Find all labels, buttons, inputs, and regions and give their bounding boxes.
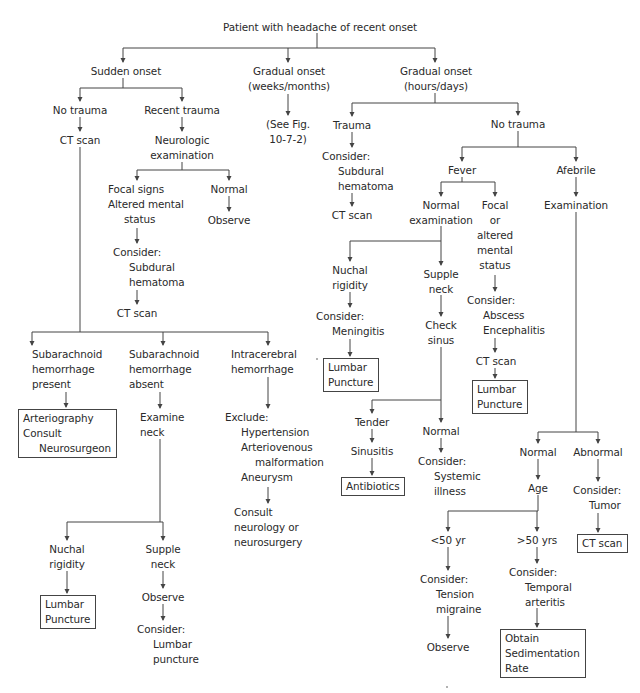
lumbar-puncture-box: LumbarPuncture <box>323 358 379 392</box>
exclude-node: Exclude:HypertensionArteriovenousmalform… <box>225 410 324 485</box>
node-text: neck <box>140 425 184 440</box>
node-text: hematoma <box>113 275 185 290</box>
sudden-onset-node: Sudden onset <box>91 64 161 79</box>
arrowhead-icon <box>161 584 166 589</box>
arrowhead-icon <box>65 589 70 594</box>
ct-scan-node: CT scan <box>332 208 372 223</box>
node-text: rigidity <box>332 278 368 293</box>
node-text: Consider: <box>420 572 481 587</box>
ct-scan-box: CT scan <box>577 534 628 553</box>
consider-subdural-node: Consider:Subduralhematoma <box>322 149 394 194</box>
node-text: Consider: <box>113 245 185 260</box>
node-text: mental <box>477 243 513 258</box>
tender-node: Tender <box>355 415 389 430</box>
arrowhead-icon <box>161 616 166 621</box>
node-text: puncture <box>137 652 199 667</box>
node-text: Sinusitis <box>351 444 393 459</box>
afebrile-node: Afebrile <box>556 163 595 178</box>
arrowhead-icon <box>516 111 521 116</box>
observe-node: Observe <box>142 590 185 605</box>
observe-node: Observe <box>208 213 251 228</box>
arrowhead-icon <box>493 348 498 353</box>
node-text: Consult <box>23 426 111 441</box>
node-text: Patient with headache of recent onset <box>223 20 417 35</box>
sinusitis-node: Sinusitis <box>351 444 393 459</box>
node-text: Normal <box>423 424 460 439</box>
observe-node: Observe <box>427 640 470 655</box>
node-text: Puncture <box>328 375 373 390</box>
node-text: sinus <box>425 333 456 348</box>
root-node: Patient with headache of recent onset <box>223 20 417 35</box>
node-text: Focal <box>477 198 513 213</box>
node-text: present <box>32 377 102 392</box>
node-text: Hypertension <box>225 425 324 440</box>
see-figure-node: (See Fig.10-7-2) <box>266 117 310 147</box>
node-text: Normal <box>409 198 473 213</box>
node-text: CT scan <box>332 208 372 223</box>
arrowhead-icon <box>227 176 232 181</box>
node-text: 10-7-2) <box>266 132 310 147</box>
arrowhead-icon <box>135 239 140 244</box>
arrowhead-icon <box>446 566 451 571</box>
node-text: Examination <box>544 198 608 213</box>
arrowhead-icon <box>65 536 70 541</box>
nuchal-rigidity-node: Nuchalrigidity <box>49 542 85 572</box>
node-text: Normal <box>520 445 557 460</box>
arrowhead-icon <box>348 303 353 308</box>
arrowhead-icon <box>161 536 166 541</box>
node-text: malformation <box>225 455 324 470</box>
node-text: Age <box>528 481 548 496</box>
node-text: Sudden onset <box>91 64 161 79</box>
arrowhead-icon <box>266 499 271 504</box>
node-text: Abscess <box>467 308 545 323</box>
arrowhead-icon <box>348 352 353 357</box>
focal-signs-node: Focal signsAltered mentalstatus <box>108 182 184 227</box>
obtain-sedimentation-rate-box: ObtainSedimentationRate <box>500 629 586 678</box>
arrowhead-icon <box>446 634 451 639</box>
node-text: Obtain <box>505 631 580 646</box>
node-text: No trauma <box>53 103 107 118</box>
node-text: rigidity <box>49 557 85 572</box>
arrowhead-icon <box>439 261 444 266</box>
arrowhead-icon <box>350 202 355 207</box>
arrowhead-icon <box>536 475 541 480</box>
arrowhead-icon <box>180 127 185 132</box>
arrowhead-icon <box>493 287 498 292</box>
arrowhead-icon <box>350 112 355 117</box>
node-text: altered <box>477 228 513 243</box>
node-text: Consider: <box>509 565 572 580</box>
node-text: Intracerebral <box>231 347 297 362</box>
node-text: Normal <box>211 182 248 197</box>
arrowhead-icon <box>135 300 140 305</box>
node-text: neurosurgery <box>234 535 302 550</box>
node-text: Consider: <box>316 309 384 324</box>
node-text: Tender <box>355 415 389 430</box>
node-text: (hours/days) <box>400 79 472 94</box>
node-text: Fever <box>448 163 476 178</box>
consider-temporal-arteritis-node: Consider:Temporalarteritis <box>509 565 572 610</box>
node-text: Neurologic <box>150 133 214 148</box>
node-text: Gradual onset <box>400 64 472 79</box>
node-text: Subarachnoid <box>32 347 102 362</box>
print-speck <box>446 686 448 688</box>
node-text: Lumbar <box>45 597 90 612</box>
node-text: status <box>108 212 184 227</box>
node-text: Temporal <box>509 580 572 595</box>
arrowhead-icon <box>370 438 375 443</box>
node-text: CT scan <box>582 536 622 551</box>
node-text: Antibiotics <box>346 479 399 494</box>
neurologic-exam-node: Neurologicexamination <box>150 133 214 163</box>
node-text: neck <box>145 557 180 572</box>
over-50-node: >50 yrs <box>517 533 557 548</box>
arrowhead-icon <box>493 192 498 197</box>
node-text: Lumbar <box>137 637 199 652</box>
arrowhead-icon <box>370 409 375 414</box>
node-text: Tension <box>420 587 481 602</box>
node-text: Supple <box>423 267 458 282</box>
node-text: hemorrhage <box>32 362 102 377</box>
no-trauma-node: No trauma <box>53 103 107 118</box>
node-text: Aneurysm <box>225 470 324 485</box>
headache-flowchart: Patient with headache of recent onset Su… <box>0 0 640 693</box>
arrowhead-icon <box>596 477 601 482</box>
node-text: arteritis <box>509 595 572 610</box>
